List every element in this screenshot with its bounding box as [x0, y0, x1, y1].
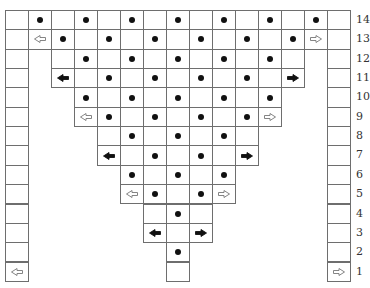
grid-cell	[212, 29, 236, 49]
dot-icon	[175, 172, 181, 178]
dot-icon	[221, 95, 227, 101]
grid-cell	[327, 223, 351, 243]
right-arrow-outline-icon	[310, 35, 322, 43]
grid-cell	[327, 49, 351, 69]
grid-cell	[166, 29, 190, 49]
left-arrow-filled-icon	[57, 74, 69, 82]
grid-cell	[120, 10, 144, 30]
dot-icon	[152, 114, 158, 120]
grid-cell	[166, 262, 190, 282]
row-label: 7	[356, 145, 370, 164]
grid-cell	[5, 107, 29, 127]
grid-cell	[189, 145, 213, 165]
grid-cell	[97, 87, 121, 107]
grid-cell	[97, 68, 121, 88]
grid-cell	[143, 165, 167, 185]
grid-cell	[166, 68, 190, 88]
grid-cell	[166, 87, 190, 107]
grid-cell	[189, 68, 213, 88]
left-arrow-outline-icon	[80, 113, 92, 121]
grid-cell	[143, 29, 167, 49]
dot-icon	[129, 95, 135, 101]
grid-cell	[97, 107, 121, 127]
dot-icon	[152, 75, 158, 81]
dot-icon	[290, 36, 296, 42]
grid-cell	[97, 49, 121, 69]
grid-cell	[166, 242, 190, 262]
row-label: 5	[356, 184, 370, 203]
grid-cell	[166, 165, 190, 185]
grid-cell	[5, 242, 29, 262]
grid-cell	[166, 10, 190, 30]
grid-cell	[74, 107, 98, 127]
grid-cell	[120, 165, 144, 185]
grid-cell	[212, 68, 236, 88]
dot-icon	[60, 36, 66, 42]
grid-cell	[235, 87, 259, 107]
grid-cell	[235, 126, 259, 146]
dot-icon	[244, 114, 250, 120]
grid-cell	[97, 126, 121, 146]
left-arrow-outline-icon	[126, 190, 138, 198]
grid-cell	[189, 49, 213, 69]
grid-cell	[212, 49, 236, 69]
grid-cell	[120, 29, 144, 49]
grid-cell	[28, 29, 52, 49]
grid-cell	[97, 29, 121, 49]
grid-cell	[166, 107, 190, 127]
grid-cell	[120, 68, 144, 88]
grid-cell	[143, 204, 167, 224]
grid-cell	[189, 107, 213, 127]
dot-icon	[267, 17, 273, 23]
grid-cell	[74, 49, 98, 69]
dot-icon	[83, 17, 89, 23]
dot-icon	[244, 36, 250, 42]
grid-cell	[327, 68, 351, 88]
grid-cell	[212, 165, 236, 185]
grid-cell	[258, 68, 282, 88]
grid-cell	[189, 87, 213, 107]
grid-cell	[5, 126, 29, 146]
grid-cell	[281, 10, 305, 30]
grid-cell	[120, 87, 144, 107]
grid-cell	[5, 262, 29, 282]
dot-icon	[244, 75, 250, 81]
grid-cell	[51, 29, 75, 49]
dot-icon	[37, 17, 43, 23]
right-arrow-filled-icon	[287, 74, 299, 82]
dot-icon	[175, 17, 181, 23]
row-label: 1	[356, 262, 370, 281]
left-arrow-outline-icon	[11, 268, 23, 276]
grid-cell	[212, 107, 236, 127]
grid-cell	[143, 49, 167, 69]
grid-cell	[74, 10, 98, 30]
grid-cell	[143, 145, 167, 165]
dot-icon	[106, 36, 112, 42]
dot-icon	[106, 75, 112, 81]
dot-icon	[106, 114, 112, 120]
dot-icon	[129, 133, 135, 139]
row-label: 11	[356, 68, 370, 87]
dot-icon	[175, 133, 181, 139]
dot-icon	[221, 17, 227, 23]
grid-cell	[74, 87, 98, 107]
grid-cell	[235, 107, 259, 127]
dot-icon	[267, 56, 273, 62]
grid-cell	[166, 145, 190, 165]
grid-cell	[235, 145, 259, 165]
grid-cell	[327, 145, 351, 165]
grid-cell	[212, 184, 236, 204]
grid-cell	[327, 242, 351, 262]
grid-cell	[327, 87, 351, 107]
grid-cell	[327, 184, 351, 204]
grid-cell	[212, 10, 236, 30]
grid-cell	[74, 29, 98, 49]
grid-cell	[235, 10, 259, 30]
grid-cell	[258, 49, 282, 69]
dot-icon	[198, 114, 204, 120]
grid-cell	[5, 87, 29, 107]
left-arrow-outline-icon	[34, 35, 46, 43]
right-arrow-filled-icon	[195, 229, 207, 237]
right-arrow-outline-icon	[333, 268, 345, 276]
row-label: 4	[356, 204, 370, 223]
